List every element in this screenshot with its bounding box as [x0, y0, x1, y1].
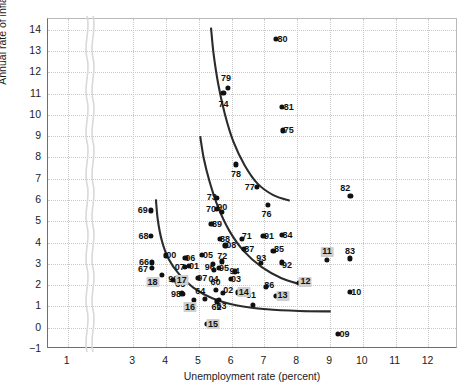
gridline-vertical: [68, 19, 69, 347]
gridline-vertical: [232, 19, 233, 347]
data-point-label-83: 83: [345, 246, 355, 255]
data-point-label-98: 98: [171, 289, 181, 298]
x-axis-tick-label: 8: [281, 355, 311, 366]
y-axis-tick-label: 4: [11, 237, 41, 247]
gridline-horizontal: [48, 328, 456, 329]
data-point-label-92: 92: [282, 260, 292, 269]
gridline-vertical: [133, 19, 134, 347]
data-point-label-08: 08: [226, 241, 236, 250]
x-axis-tick-label: 12: [412, 355, 442, 366]
data-point-label-01: 01: [189, 262, 199, 271]
gridline-vertical: [396, 19, 397, 347]
data-point-label-17: 17: [175, 275, 188, 285]
data-point-label-90: 90: [217, 202, 227, 211]
data-point-label-09: 09: [339, 329, 349, 338]
gridline-horizontal: [48, 157, 456, 158]
data-point-label-10: 10: [351, 288, 361, 297]
x-axis-tick-label: 1: [52, 355, 82, 366]
data-point-label-75: 75: [284, 126, 294, 135]
phillips-curve-chart: 6061626364656667686970717273747576777879…: [0, 0, 475, 389]
data-point-label-79: 79: [221, 74, 231, 83]
x-axis-tick-label: 6: [216, 355, 246, 366]
y-axis-tick-label: 13: [11, 45, 41, 55]
data-point-label-00: 00: [166, 251, 176, 260]
gridline-horizontal: [48, 285, 456, 286]
clipped-top-text: [0, 0, 475, 7]
data-point-label-05: 05: [203, 250, 213, 259]
y-axis-tick-label: −1: [11, 343, 41, 353]
data-point-label-64: 64: [195, 287, 205, 296]
data-point-label-06: 06: [185, 254, 195, 263]
gridline-horizontal: [48, 51, 456, 52]
gridline-vertical: [199, 19, 200, 347]
data-point-label-81: 81: [284, 102, 294, 111]
data-point-label-70: 70: [206, 205, 216, 214]
data-point-label-87: 87: [244, 245, 254, 254]
gridline-horizontal: [48, 136, 456, 137]
y-axis-tick-label: 2: [11, 279, 41, 289]
gridline-vertical: [428, 19, 429, 347]
gridline-vertical: [264, 19, 265, 347]
data-point-label-82: 82: [340, 184, 350, 193]
data-point-label-02: 02: [223, 286, 233, 295]
x-axis-tick-label: 11: [380, 355, 410, 366]
data-point-label-16: 16: [183, 302, 196, 312]
data-point-label-89: 89: [212, 220, 222, 229]
gridline-horizontal: [48, 264, 456, 265]
data-point-label-04: 04: [209, 274, 219, 283]
data-point-label-76: 76: [261, 209, 271, 218]
gridline-horizontal: [48, 221, 456, 222]
gridline-horizontal: [48, 72, 456, 73]
y-axis-tick-label: 0: [11, 322, 41, 332]
y-axis-tick-label: 6: [11, 194, 41, 204]
x-axis-tick-label: 10: [347, 355, 377, 366]
data-point-label-71: 71: [242, 232, 252, 241]
x-axis-label: Unemployment rate (percent): [47, 370, 457, 382]
y-axis-tick-label: 9: [11, 130, 41, 140]
gridline-horizontal: [48, 179, 456, 180]
data-point-label-11: 11: [321, 247, 334, 257]
y-axis-tick-label: 14: [11, 24, 41, 34]
data-point-label-80: 80: [277, 35, 287, 44]
y-axis-tick-label: 1: [11, 300, 41, 310]
data-point-label-03: 03: [231, 274, 241, 283]
data-point-label-73: 73: [207, 192, 217, 201]
data-point-label-63: 63: [216, 302, 226, 311]
y-axis-tick-label: 11: [11, 88, 41, 98]
gridline-vertical: [166, 19, 167, 347]
gridline-horizontal: [48, 200, 456, 201]
y-axis-tick-label: 7: [11, 173, 41, 183]
gridline-horizontal: [48, 30, 456, 31]
gridline-vertical: [297, 19, 298, 347]
data-point-label-86: 86: [264, 281, 274, 290]
y-axis-tick-label: 5: [11, 215, 41, 225]
data-point-label-97: 97: [197, 273, 207, 282]
x-axis-tick-label: 5: [183, 355, 213, 366]
data-point-label-78: 78: [231, 170, 241, 179]
y-axis-tick-label: 3: [11, 258, 41, 268]
gridline-horizontal: [48, 94, 456, 95]
data-point-label-12: 12: [299, 277, 312, 287]
x-axis-tick-label: 7: [248, 355, 278, 366]
data-point-label-77: 77: [245, 183, 255, 192]
data-point-label-95: 95: [219, 264, 229, 273]
data-point-label-91: 91: [264, 232, 274, 241]
x-axis-tick-label: 4: [150, 355, 180, 366]
y-axis-tick-label: 12: [11, 66, 41, 76]
data-point-label-84: 84: [282, 230, 292, 239]
data-point-label-69: 69: [138, 206, 148, 215]
data-point-label-15: 15: [206, 319, 219, 329]
data-point-label-72: 72: [217, 252, 227, 261]
y-axis-tick-label: 10: [11, 109, 41, 119]
y-axis-label: Annual rate of inflation (percent): [0, 0, 8, 110]
data-point-label-74: 74: [218, 100, 228, 109]
data-point-label-14: 14: [237, 287, 250, 297]
gridline-horizontal: [48, 115, 456, 116]
y-axis-tick-label: 8: [11, 151, 41, 161]
gridline-vertical: [363, 19, 364, 347]
data-point-label-68: 68: [138, 231, 148, 240]
x-axis-tick-label: 9: [314, 355, 344, 366]
data-point-label-85: 85: [274, 245, 284, 254]
x-axis-tick-label: 3: [117, 355, 147, 366]
data-point-label-07: 07: [175, 263, 185, 272]
